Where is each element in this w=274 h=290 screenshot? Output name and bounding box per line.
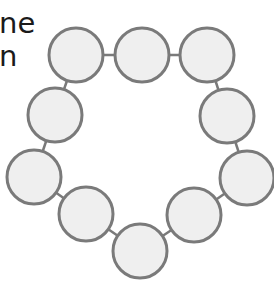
circle-node-10: [28, 88, 82, 142]
circle-node-2: [115, 28, 169, 82]
circle-node-9: [7, 150, 61, 204]
ring-diagram: [0, 0, 274, 290]
circle-node-1: [49, 28, 103, 82]
circle-node-4: [200, 89, 254, 143]
circle-node-7: [113, 224, 167, 278]
circle-node-6: [167, 188, 221, 242]
circle-node-8: [59, 187, 113, 241]
circle-node-5: [220, 151, 274, 205]
circle-nodes: [7, 28, 274, 278]
circle-node-3: [180, 28, 234, 82]
